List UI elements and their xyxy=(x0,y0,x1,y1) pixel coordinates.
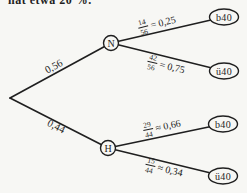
node-label-H: H xyxy=(104,143,111,154)
fraction-denominator: 56 xyxy=(146,62,155,72)
leaf-label-b40-top: b40 xyxy=(216,12,232,23)
fraction-value: = 0,75 xyxy=(158,60,185,76)
tree-structure xyxy=(0,0,247,193)
fraction-denominator: 44 xyxy=(144,165,153,175)
fraction-denominator: 56 xyxy=(140,27,149,37)
fraction-value: ≈ 0,66 xyxy=(155,118,182,133)
leaf-label-u40-top: ü40 xyxy=(216,66,232,77)
branch-line-root-N xyxy=(10,43,111,98)
leaf-label-u40-bottom: ü40 xyxy=(215,171,231,182)
fraction-value: = 0,25 xyxy=(149,15,176,31)
fraction-value: ≈ 0,34 xyxy=(157,163,184,178)
leaf-label-b40-bottom: b40 xyxy=(215,119,231,130)
fraction-denominator: 44 xyxy=(144,130,153,140)
tree-diagram: hat etwa 20 %. 0,56 0,44 14 56 = 0,25 42… xyxy=(0,0,247,193)
node-label-N: N xyxy=(107,38,114,49)
